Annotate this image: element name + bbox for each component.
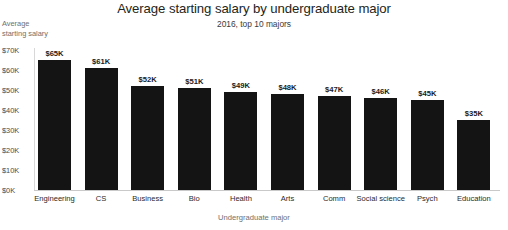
bar[interactable] [411, 100, 444, 190]
bar[interactable] [224, 92, 257, 190]
bar-value-label: $46K [372, 87, 390, 96]
bar-chart-figure: Average starting salary by undergraduate… [0, 0, 508, 230]
bar-group[interactable]: $47K [318, 50, 351, 190]
bar-group[interactable]: $65K [38, 50, 71, 190]
bar-value-label: $65K [45, 49, 63, 58]
bar-group[interactable]: $35K [457, 50, 490, 190]
bar-group[interactable]: $45K [411, 50, 444, 190]
bar-group[interactable]: $46K [364, 50, 397, 190]
bar[interactable] [271, 94, 304, 190]
bar[interactable] [318, 96, 351, 190]
x-axis-tick-label: Education [434, 194, 508, 203]
chart-title: Average starting salary by undergraduate… [0, 1, 508, 16]
bar[interactable] [38, 60, 71, 190]
y-axis-tick-label: $40K [2, 106, 32, 115]
bar[interactable] [131, 86, 164, 190]
bar[interactable] [364, 98, 397, 190]
bar-group[interactable]: $49K [224, 50, 257, 190]
bar-group[interactable]: $51K [178, 50, 211, 190]
bar-value-label: $49K [232, 81, 250, 90]
plot-area: $65K$61K$52K$51K$49K$48K$47K$46K$45K$35K [34, 50, 500, 190]
x-axis-title: Undergraduate major [0, 213, 508, 222]
bar-group[interactable]: $61K [85, 50, 118, 190]
bar[interactable] [178, 88, 211, 190]
x-axis-line [34, 190, 500, 191]
y-axis-tick-label: $30K [2, 126, 32, 135]
bar-value-label: $51K [185, 77, 203, 86]
bar-value-label: $48K [278, 83, 296, 92]
bar-value-label: $35K [465, 109, 483, 118]
y-axis-tick-label: $20K [2, 146, 32, 155]
bar-value-label: $61K [92, 57, 110, 66]
bar-group[interactable]: $48K [271, 50, 304, 190]
bar[interactable] [457, 120, 490, 190]
y-axis-tick-label: $50K [2, 86, 32, 95]
bar-value-label: $45K [418, 89, 436, 98]
bar[interactable] [85, 68, 118, 190]
bar-value-label: $52K [139, 75, 157, 84]
y-axis-tick-label: $60K [2, 66, 32, 75]
chart-subtitle: 2016, top 10 majors [0, 19, 508, 29]
y-axis-tick-label: $10K [2, 166, 32, 175]
bar-value-label: $47K [325, 85, 343, 94]
y-axis-tick-label: $70K [2, 46, 32, 55]
bar-group[interactable]: $52K [131, 50, 164, 190]
